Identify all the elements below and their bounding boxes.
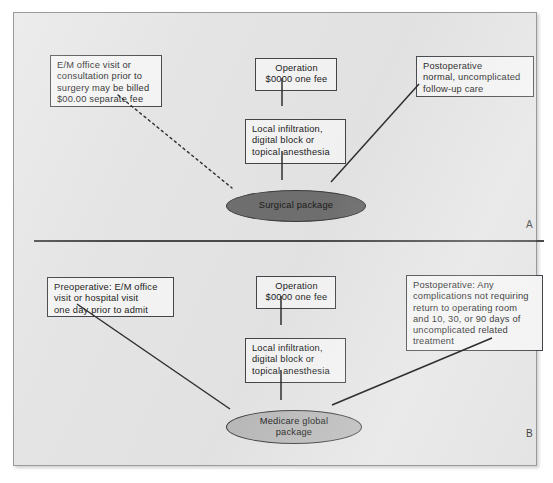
figure-canvas: E/M office visit or consultation prior t… bbox=[0, 0, 553, 483]
panel-divider bbox=[34, 240, 544, 242]
panel-a-surgical-package-node: Surgical package bbox=[226, 190, 366, 222]
panel-a-anesthesia-box: Local infiltration, digital block or top… bbox=[245, 119, 346, 164]
panel-b-medicare-global-package-node: Medicare global package bbox=[226, 410, 362, 444]
panel-a-operation-box: Operation $0000 one fee bbox=[255, 58, 337, 91]
panel-a-postoperative-box: Postoperative normal, uncomplicated foll… bbox=[416, 56, 534, 97]
panel-b-letter-label: B bbox=[526, 428, 533, 439]
panel-a-preoperative-box: E/M office visit or consultation prior t… bbox=[50, 55, 162, 107]
figure-frame: E/M office visit or consultation prior t… bbox=[13, 12, 537, 466]
panel-b-postoperative-box: Postoperative: Any complications not req… bbox=[406, 275, 543, 351]
panel-b-anesthesia-box: Local infiltration, digital block or top… bbox=[245, 338, 346, 383]
panel-a-letter-label: A bbox=[526, 219, 533, 230]
panel-b-operation-box: Operation $0000 one fee bbox=[256, 276, 336, 309]
panel-b-preoperative-box: Preoperative: E/M office visit or hospit… bbox=[47, 277, 174, 317]
